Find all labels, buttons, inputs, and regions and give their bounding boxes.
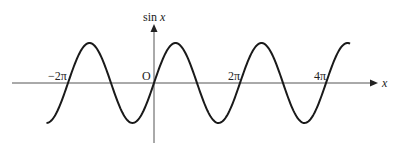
x-axis-arrow-icon: [370, 80, 378, 87]
tick-label-neg-2pi: −2π: [48, 69, 67, 83]
tick-label-4pi: 4π: [314, 69, 326, 83]
y-axis-label: sin x: [143, 10, 166, 24]
x-axis-label: x: [381, 76, 388, 90]
origin-label: O: [142, 69, 151, 83]
y-axis-arrow-icon: [151, 24, 158, 32]
sine-chart: sin x x O −2π 2π 4π: [0, 0, 398, 152]
tick-label-2pi: 2π: [228, 69, 240, 83]
